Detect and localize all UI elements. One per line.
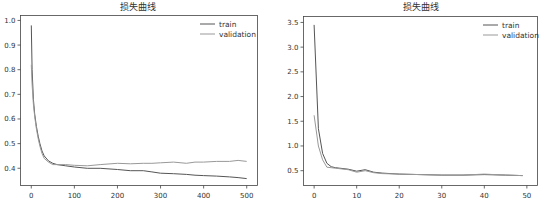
y-tick-label: 0.6 — [4, 115, 16, 123]
series-line-validation — [314, 115, 522, 175]
series-line-train — [31, 25, 246, 178]
legend: train validation — [483, 21, 539, 40]
y-tick-label: 0.8 — [4, 66, 15, 74]
x-tick-label: 0 — [29, 192, 33, 200]
x-tick-label: 50 — [522, 192, 531, 200]
y-tick-label: 0.7 — [4, 91, 15, 99]
y-axis: 0.40.50.60.70.80.91.0 — [4, 17, 20, 173]
x-tick-label: 300 — [154, 192, 167, 200]
y-tick-label: 3.5 — [287, 19, 298, 27]
plot-lines — [31, 25, 246, 178]
y-tick-label: 1.0 — [287, 142, 298, 150]
x-tick-label: 0 — [312, 192, 316, 200]
y-tick-label: 1.0 — [4, 17, 15, 25]
x-tick-label: 10 — [352, 192, 361, 200]
y-tick-label: 0.9 — [4, 42, 15, 50]
x-tick-label: 200 — [111, 192, 124, 200]
chart-title: 损失曲线 — [120, 1, 156, 12]
y-tick-label: 1.5 — [287, 118, 298, 126]
y-axis: 0.51.01.52.02.53.03.5 — [287, 19, 303, 175]
x-axis: 0100200300400500 — [29, 186, 253, 200]
y-tick-label: 2.0 — [287, 93, 298, 101]
legend-train-label: train — [219, 20, 237, 29]
plot-lines — [314, 25, 522, 176]
plot-frame — [21, 16, 258, 186]
legend-validation-label: validation — [502, 31, 539, 40]
x-tick-label: 20 — [395, 192, 404, 200]
y-tick-label: 2.5 — [287, 68, 298, 76]
legend-train-label: train — [502, 21, 520, 30]
loss-chart-right: 损失曲线 0.51.01.52.02.53.03.5 01020304050 t… — [271, 0, 542, 211]
x-tick-label: 400 — [197, 192, 210, 200]
plot-frame — [304, 17, 538, 186]
x-axis: 01020304050 — [312, 186, 531, 200]
x-tick-label: 30 — [437, 192, 446, 200]
chart-title: 损失曲线 — [403, 1, 439, 12]
x-tick-label: 100 — [68, 192, 81, 200]
legend-validation-label: validation — [219, 30, 256, 39]
y-tick-label: 0.4 — [4, 165, 16, 173]
y-tick-label: 0.5 — [287, 167, 298, 175]
x-tick-label: 40 — [480, 192, 489, 200]
y-tick-label: 3.0 — [287, 44, 298, 52]
loss-chart-left: 损失曲线 0.40.50.60.70.80.91.0 0100200300400… — [0, 0, 271, 211]
legend: train validation — [200, 20, 256, 39]
x-tick-label: 500 — [240, 192, 253, 200]
y-tick-label: 0.5 — [4, 140, 15, 148]
series-line-validation — [31, 65, 246, 166]
series-line-train — [314, 25, 522, 176]
